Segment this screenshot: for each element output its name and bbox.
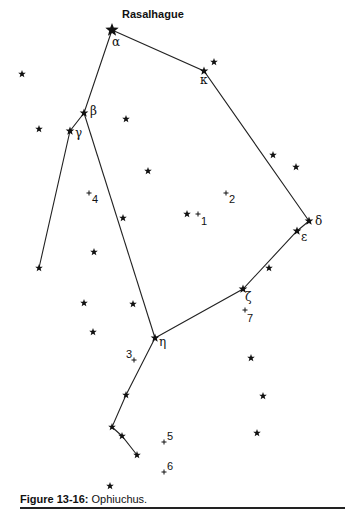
rasalhague-label: Rasalhague [122,8,184,20]
star-delta-label: δ [315,214,322,228]
star-alpha-icon [105,23,118,36]
star-icon [144,167,152,174]
star-icon [80,299,88,306]
star-icon [247,354,255,361]
star-icon [18,70,26,77]
cross-icon [87,191,92,196]
caption-rule [20,507,345,509]
deep-sky-object-label: 7 [247,312,253,324]
star-zeta-label: ζ [245,290,252,304]
star-eta-label: η [159,335,166,349]
star-icon [122,115,130,122]
star-icon [35,264,43,271]
cross-icon [196,212,201,217]
deep-sky-object-3: 3 [126,348,137,363]
ophiuchus-star-chart: ακβγδεζη 1234567 Rasalhague [0,0,349,515]
constellation-line [112,30,309,221]
constellation-line [84,113,155,338]
star-icon [119,214,127,221]
constellation-line [112,338,155,455]
star-icon [183,210,191,217]
star-icon [265,264,273,271]
star-icon [210,58,218,65]
deep-sky-object-2: 2 [224,191,236,206]
caption-label: Figure 13-16: [20,493,88,505]
star-icon [90,248,98,255]
constellation-lines [39,30,309,455]
star-icon [106,482,114,489]
star-icon [35,125,43,132]
star-beta-icon [80,108,89,116]
star-icon [129,300,137,307]
deep-sky-object-4: 4 [87,191,99,206]
deep-sky-object-label: 3 [126,348,132,360]
constellation-line [155,221,309,338]
caption-text: Ophiuchus. [88,493,147,505]
constellation-line [39,30,112,268]
cross-icon [224,191,229,196]
deep-sky-object-5: 5 [162,430,174,445]
deep-sky-object-7: 7 [243,308,254,325]
star-kappa-label: κ [200,73,208,87]
star-alpha-label: α [112,35,120,49]
deep-sky-objects: 1234567 [87,191,254,475]
deep-sky-object-label: 1 [201,215,207,227]
star-beta-label: β [90,104,97,118]
cross-icon [162,440,167,445]
star-epsilon-label: ε [301,230,307,244]
cross-icon [132,358,137,363]
deep-sky-object-label: 5 [167,430,173,442]
cross-icon [162,470,167,475]
star-icon [292,163,300,170]
deep-sky-object-label: 6 [167,460,173,472]
stars: ακβγδεζη [18,23,322,489]
deep-sky-object-label: 4 [92,193,98,205]
deep-sky-object-1: 1 [196,212,208,228]
star-icon [269,151,277,158]
deep-sky-object-label: 2 [229,193,235,205]
star-gamma-label: γ [75,126,82,140]
figure-caption: Figure 13-16: Ophiuchus. [20,493,147,505]
deep-sky-object-6: 6 [162,460,174,475]
star-icon [253,429,261,436]
star-icon [122,391,130,398]
star-icon [259,392,267,399]
star-icon [89,328,97,335]
